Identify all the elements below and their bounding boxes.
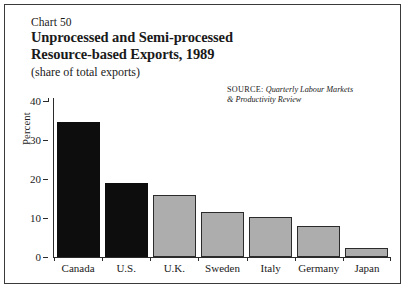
y-axis-tick-label: 10: [30, 212, 41, 224]
y-axis-tick-label: 30: [30, 134, 41, 146]
source-label: SOURCE:: [227, 85, 264, 94]
bar-japan: [345, 248, 388, 257]
x-axis-tick-end: [390, 257, 391, 261]
chart-header: Chart 50 Unprocessed and Semi-processed …: [31, 15, 391, 80]
chart-title-line-2: Resource-based Exports, 1989: [31, 46, 391, 63]
y-axis-tick: [43, 140, 48, 141]
bar-slot: [198, 101, 246, 257]
bar-italy: [249, 217, 292, 257]
chart-subtitle: (share of total exports): [31, 64, 391, 80]
bar-u-k: [153, 195, 196, 257]
y-axis-tick-label: 20: [30, 173, 41, 185]
source-title-line-1: Quarterly Labour Markets: [266, 85, 353, 94]
y-axis-tick-label: 40: [30, 95, 41, 107]
plot-area: 010203040 CanadaU.S.U.K.SwedenItalyGerma…: [53, 101, 391, 257]
bar-slot: [54, 101, 102, 257]
bar-germany: [297, 226, 340, 257]
x-axis-label-italy: Italy: [247, 262, 295, 274]
bar-slot: [150, 101, 198, 257]
y-axis-tick: [43, 257, 48, 258]
x-axis-label-japan: Japan: [343, 262, 391, 274]
x-axis-label-u-k: U.K.: [150, 262, 198, 274]
y-axis-tick: [43, 218, 48, 219]
x-axis-label-canada: Canada: [54, 262, 102, 274]
bar-series: [54, 101, 391, 257]
y-axis-tick: [43, 179, 48, 180]
bar-slot: [343, 101, 391, 257]
x-axis-label-sweden: Sweden: [198, 262, 246, 274]
y-axis-tick-label: 0: [36, 251, 42, 263]
x-axis-label-germany: Germany: [295, 262, 343, 274]
y-axis-ticks: 010203040: [48, 101, 49, 257]
x-axis-label-u-s: U.S.: [102, 262, 150, 274]
chart-title-line-1: Unprocessed and Semi-processed: [31, 29, 391, 46]
bar-canada: [57, 122, 100, 257]
bar-slot: [247, 101, 295, 257]
chart-number: Chart 50: [31, 15, 391, 29]
x-axis-labels: CanadaU.S.U.K.SwedenItalyGermanyJapan: [54, 262, 391, 274]
chart-figure: Chart 50 Unprocessed and Semi-processed …: [4, 4, 401, 284]
bar-u-s: [105, 183, 148, 257]
y-axis-top-cap: [48, 98, 49, 102]
bar-slot: [102, 101, 150, 257]
bar-sweden: [201, 212, 244, 257]
bar-slot: [295, 101, 343, 257]
